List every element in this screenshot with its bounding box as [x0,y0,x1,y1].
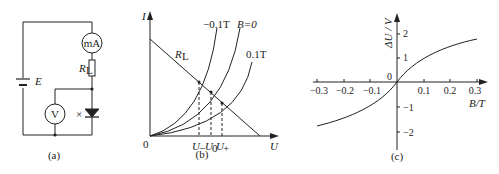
load-line-sub: L [182,50,189,62]
ammeter-label: mA [84,37,101,49]
delta-u-plot [313,13,488,150]
caption-b: (b) [196,148,209,161]
x-tick: −0.1 [363,85,381,96]
battery-label: E [34,75,42,87]
figure: E mA R L V × (a) I U 0 R L −0.1T B=0 0.1… [0,0,499,174]
caption-a: (a) [48,149,61,162]
b-axis-label: B/T [469,97,486,109]
curve-label-pos: 0.1T [246,48,267,60]
junction-dot [90,87,93,90]
y-tick: 2 [403,28,408,39]
curve-zero [150,28,240,136]
resistor-label: R [78,62,86,74]
magnetic-field-mark: × [76,108,82,120]
top-wire [23,22,92,33]
x-tick: 0.3 [469,85,482,96]
junction-dot [53,133,56,136]
y-tick: 1 [403,52,408,63]
y-tick: −1 [403,102,414,113]
voltmeter-label: V [51,108,59,120]
delta-u-axis-label: ΔU / V [382,17,394,49]
y-tick: 0 [387,71,392,82]
i-axis-label: I [141,10,147,22]
origin-label: 0 [143,138,149,150]
caption-c: (c) [391,150,404,163]
x-tick: −0.2 [336,85,354,96]
curve-neg [150,28,217,136]
x-tick: 0.2 [444,85,457,96]
diode-icon [85,109,99,117]
x-tick: 0.1 [418,85,431,96]
load-line-label: R [174,48,182,60]
iu-plot [147,11,279,139]
intersection-dot [221,102,224,105]
y-tick: −2 [403,127,414,138]
resistor-sub: L [86,64,93,76]
voltmeter-wire-top [55,89,92,104]
curve-label-zero: B=0 [237,18,257,30]
curve-pos [150,62,252,136]
x-tick: −0.3 [310,85,328,96]
intersection-dot [198,81,201,84]
curve-label-neg: −0.1T [203,18,230,30]
intersection-dot [210,91,213,94]
svg-text:+: + [223,142,229,154]
u-axis-label: U [270,140,279,152]
